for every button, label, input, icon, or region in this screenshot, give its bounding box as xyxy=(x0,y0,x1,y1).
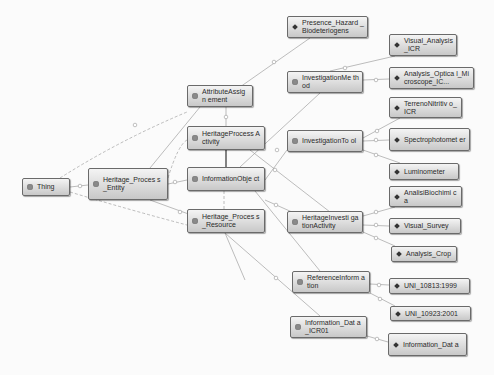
node-uni-10923-2001[interactable]: UNI_10923:2001 xyxy=(390,306,471,321)
node-luminometer[interactable]: Luminometer xyxy=(389,163,459,180)
node-thing[interactable]: Thing xyxy=(22,178,70,196)
individual-icon xyxy=(394,74,400,82)
class-icon xyxy=(297,279,303,285)
node-heritage-process-activity[interactable]: HeritageProcess Activity xyxy=(187,126,265,150)
node-analysis-crop[interactable]: Analysis_Crop xyxy=(391,246,457,262)
node-uni-10813-1999[interactable]: UNI_10813:1999 xyxy=(389,278,470,294)
edge-hpe-hpa xyxy=(168,140,187,178)
edge-hia-ac xyxy=(363,232,395,246)
node-spectrophotometer[interactable]: Spectrophotomet er xyxy=(389,128,470,151)
node-investigation-tool[interactable]: InvestigationTo ol xyxy=(287,130,363,152)
edge-im-va xyxy=(330,56,395,71)
class-icon xyxy=(292,138,298,144)
class-icon xyxy=(192,176,198,182)
individual-icon xyxy=(396,250,402,258)
edge-ri-uni2 xyxy=(370,293,395,306)
node-visual-analysis-icr[interactable]: Visual_Analysis _ICR xyxy=(389,34,457,56)
class-icon xyxy=(27,184,33,190)
individual-icon xyxy=(394,222,400,230)
individual-icon xyxy=(394,41,400,49)
class-icon xyxy=(192,93,198,99)
edge-it-lu xyxy=(363,150,400,163)
edge-hpr-x xyxy=(225,233,245,280)
node-visual-survey[interactable]: Visual_Survey xyxy=(389,218,461,234)
individual-icon xyxy=(394,104,400,112)
node-heritage-investigation-activity[interactable]: HeritageInvesti gationActivity xyxy=(287,211,363,233)
node-information-object[interactable]: InformationObje ct xyxy=(187,167,265,191)
class-icon xyxy=(292,219,298,225)
node-heritage-process-resource[interactable]: Heritage_Proces s_Resource xyxy=(187,209,265,233)
class-icon xyxy=(192,218,198,224)
node-information-data-icr01[interactable]: Information_Dat a_ICR01 xyxy=(290,316,367,338)
node-attribute-assignment[interactable]: AttributeAssign ement xyxy=(187,85,253,107)
node-investigation-method[interactable]: InvestigationMe thod xyxy=(287,71,363,93)
node-reference-information[interactable]: ReferenceInform ation xyxy=(292,271,370,293)
individual-icon xyxy=(395,310,401,318)
class-icon xyxy=(292,79,298,85)
ontology-graph-canvas[interactable]: Thing Heritage_Proces s_Entity Attribute… xyxy=(0,0,494,375)
individual-icon xyxy=(394,193,400,201)
edge-hia-ab xyxy=(363,207,395,216)
individual-icon xyxy=(292,23,298,31)
edge-io-it xyxy=(265,150,287,180)
class-icon xyxy=(295,324,301,330)
node-presence-hazard-biodeteriogens[interactable]: Presence_Hazard _Biodeteriogens xyxy=(287,16,368,38)
node-analysis-optical-microscope[interactable]: Analysis_Optica l_Microscope_IC... xyxy=(389,67,474,89)
class-icon xyxy=(93,181,99,187)
individual-icon xyxy=(394,168,400,176)
node-information-data[interactable]: Information_Dat a xyxy=(388,333,467,356)
edge-hpe-io xyxy=(168,180,187,184)
individual-icon xyxy=(394,136,400,144)
individual-icon xyxy=(393,341,399,349)
node-terreno-nitritivo-icr[interactable]: TerrenoNitritiv o_ICR xyxy=(389,97,462,118)
class-icon xyxy=(192,135,198,141)
node-heritage-process-entity[interactable]: Heritage_Proces s_Entity xyxy=(88,168,168,200)
individual-icon xyxy=(394,282,400,290)
node-analisi-biochimica[interactable]: AnalisiBiochimi ca xyxy=(389,186,462,207)
